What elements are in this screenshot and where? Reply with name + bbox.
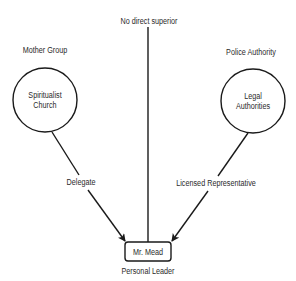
licensed-edge-upper: [218, 133, 248, 176]
delegate-edge-label: Delegate: [65, 177, 97, 188]
spiritualist-church-line-1: Spiritualist: [28, 90, 61, 100]
personal-leader-caption: Personal Leader: [121, 267, 174, 276]
spiritualist-church-label: Spiritualist Church: [28, 90, 61, 110]
legal-authorities-line-1: Legal: [236, 91, 270, 101]
delegate-edge-upper: [52, 132, 79, 175]
mother-group-heading: Mother Group: [23, 46, 68, 55]
licensed-representative-edge-label: Licensed Representative: [175, 178, 258, 189]
spiritualist-church-line-2: Church: [28, 100, 61, 110]
diagram-canvas: [0, 0, 296, 281]
legal-authorities-label: Legal Authorities: [236, 91, 270, 111]
legal-authorities-line-2: Authorities: [236, 101, 270, 111]
mr-mead-label: Mr. Mead: [133, 248, 163, 257]
top-label: No direct superior: [120, 17, 177, 26]
police-authority-heading: Police Authority: [226, 48, 276, 57]
delegate-edge-lower: [88, 190, 125, 241]
licensed-edge-lower: [172, 191, 208, 241]
